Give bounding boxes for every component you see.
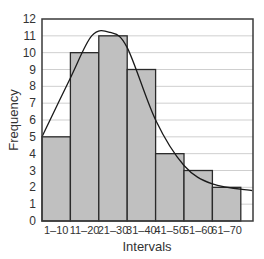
y-tick-label: 12 <box>23 12 37 26</box>
x-axis-ticks: 1–1011–2021–3031–4041–5051–6061–70 <box>44 224 242 236</box>
y-tick-label: 1 <box>29 197 36 211</box>
histogram-chart: 0123456789101112 1–1011–2021–3031–4041–5… <box>0 0 264 259</box>
y-tick-label: 11 <box>24 29 37 43</box>
x-axis-label: Intervals <box>122 239 172 254</box>
histogram-bar-1–10 <box>42 137 70 221</box>
x-tick-label: 61–70 <box>211 224 242 236</box>
histogram-bars <box>42 36 241 221</box>
y-axis-label: Frequency <box>6 89 21 151</box>
y-tick-label: 4 <box>29 147 36 161</box>
y-tick-label: 7 <box>29 96 36 110</box>
x-tick-label: 51–60 <box>183 224 214 236</box>
x-tick-label: 21–30 <box>98 224 129 236</box>
y-axis-ticks: 0123456789101112 <box>23 12 37 228</box>
histogram-bar-21–30 <box>99 36 127 221</box>
x-tick-label: 41–50 <box>155 224 186 236</box>
x-tick-label: 1–10 <box>44 224 68 236</box>
y-tick-label: 9 <box>29 63 36 77</box>
y-tick-label: 2 <box>29 180 36 194</box>
histogram-bar-11–20 <box>70 53 98 221</box>
histogram-bar-41–50 <box>156 154 184 221</box>
y-tick-label: 8 <box>29 79 36 93</box>
y-tick-label: 3 <box>29 164 36 178</box>
x-tick-label: 31–40 <box>126 224 157 236</box>
histogram-bar-31–40 <box>127 70 155 222</box>
x-tick-label: 11–20 <box>70 224 100 236</box>
y-tick-label: 6 <box>29 113 36 127</box>
y-tick-label: 0 <box>29 214 36 228</box>
y-tick-label: 10 <box>23 46 37 60</box>
histogram-bar-61–70 <box>212 187 240 221</box>
y-tick-label: 5 <box>29 130 36 144</box>
